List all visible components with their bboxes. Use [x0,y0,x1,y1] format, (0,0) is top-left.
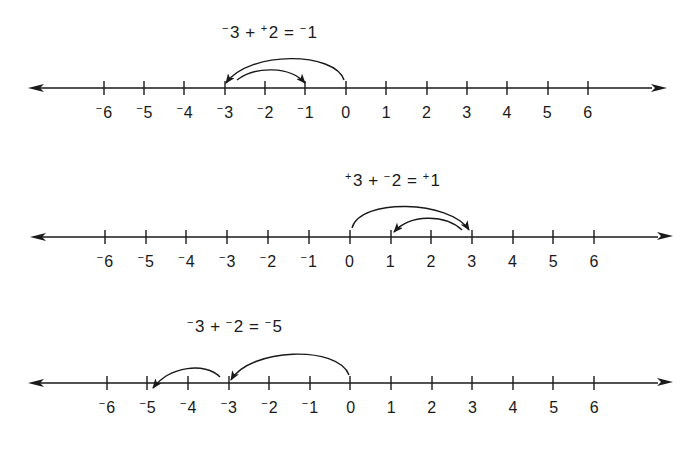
tick-number: 3 [467,253,476,270]
equals: = [249,317,259,336]
tick-label: 2 [422,104,431,122]
tick-number: 3 [224,104,233,121]
tick-number: 1 [308,253,317,270]
tick-number: 5 [144,104,153,121]
tick-label: 3 [467,253,476,271]
tick-number: 2 [264,104,273,121]
tick-label: 0 [345,253,354,271]
number-lines-canvas [0,0,691,455]
tick-number: 4 [187,399,196,416]
equation-2: +3 + −2 = +1 [345,171,441,191]
sign: − [219,251,225,263]
tick-label: −2 [261,399,277,417]
tick-label: −6 [96,104,112,122]
tick-label: −1 [301,253,317,271]
tick-number: 0 [345,253,354,270]
sign: − [187,316,194,328]
operator: + [245,23,255,42]
tick-label: 5 [543,104,552,122]
right-arrowhead-icon [657,378,673,386]
sign: − [176,102,182,114]
number-line-1 [28,59,667,95]
sign: + [261,22,268,34]
sign: − [221,397,227,409]
tick-label: −5 [138,253,154,271]
tick-number: 5 [145,253,154,270]
tick-label: −4 [178,253,194,271]
tick-label: −5 [136,104,152,122]
tick-number: 0 [341,104,350,121]
sign: − [297,102,303,114]
tick-number: 1 [382,104,391,121]
tick-number: 5 [549,399,558,416]
sign: − [97,251,103,263]
tick-number: 1 [309,399,318,416]
operand-a: 3 [353,171,363,190]
sign: − [180,397,186,409]
tick-number: 5 [549,253,558,270]
operator: + [210,317,220,336]
operand-b: 2 [392,171,402,190]
tick-label: 1 [386,253,395,271]
sign: − [301,251,307,263]
tick-number: 5 [543,104,552,121]
sign: − [261,397,267,409]
equals: = [407,171,417,190]
tick-number: 5 [147,399,156,416]
right-arrowhead-icon [651,84,667,92]
tick-number: 4 [508,253,517,270]
operand-b: 2 [234,317,244,336]
tick-label: 0 [346,399,355,417]
tick-label: 5 [549,253,558,271]
tick-number: 6 [106,399,115,416]
jump-arc-0-to-neg3 [231,354,349,380]
tick-number: 4 [184,104,193,121]
tick-label: −1 [297,104,313,122]
number-line-3 [28,354,673,390]
result: 1 [431,171,441,190]
operator: + [368,171,378,190]
tick-number: 2 [269,399,278,416]
sign: − [99,397,105,409]
result: 5 [273,317,283,336]
tick-label: 6 [590,399,599,417]
tick-label: −6 [99,399,115,417]
tick-label: −3 [221,399,237,417]
tick-number: 3 [468,399,477,416]
jump-arc-neg3-to-neg1 [237,70,305,83]
right-arrowhead-icon [657,232,673,240]
sign: − [265,316,272,328]
tick-number: 2 [267,253,276,270]
sign: − [178,251,184,263]
tick-label: −5 [139,399,155,417]
operand-a: 3 [195,317,205,336]
tick-label: 2 [427,253,436,271]
sign: − [384,170,391,182]
sign: − [300,22,307,34]
tick-label: −3 [219,253,235,271]
sign: + [345,170,352,182]
sign: − [260,251,266,263]
sign: − [302,397,308,409]
sign: − [226,316,233,328]
tick-number: 4 [186,253,195,270]
tick-number: 6 [590,253,599,270]
tick-number: 4 [503,104,512,121]
tick-number: 6 [583,104,592,121]
tick-label: 2 [427,399,436,417]
tick-number: 2 [427,253,436,270]
tick-number: 4 [509,399,518,416]
tick-label: 6 [590,253,599,271]
tick-number: 3 [227,253,236,270]
tick-label: −2 [257,104,273,122]
tick-label: 0 [341,104,350,122]
equation-1: −3 + +2 = −1 [222,23,318,43]
sign: − [217,102,223,114]
tick-label: 1 [387,399,396,417]
tick-label: 4 [509,399,518,417]
equation-3: −3 + −2 = −5 [187,317,283,337]
tick-number: 1 [386,253,395,270]
sign: − [138,251,144,263]
tick-number: 1 [305,104,314,121]
tick-label: −3 [217,104,233,122]
